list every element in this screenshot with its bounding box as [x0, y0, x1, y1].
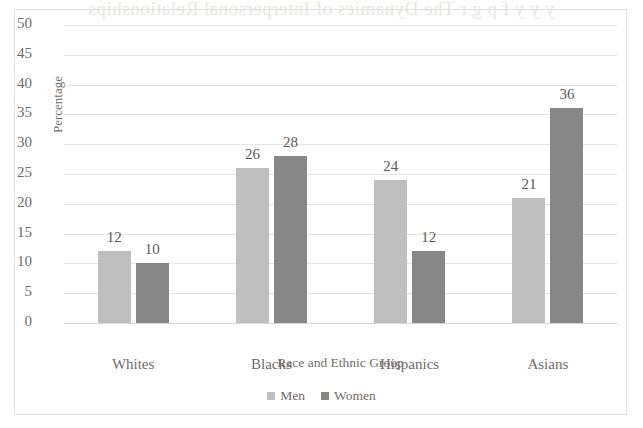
gridline [64, 55, 617, 56]
y-axis-tick-label: 50 [0, 15, 32, 32]
plot-area: 50454035302520151050Percentage1210Whites… [64, 25, 617, 323]
bar-value-label: 28 [264, 134, 317, 151]
chart-legend: MenWomen [0, 388, 643, 404]
legend-item-men[interactable]: Men [267, 388, 305, 404]
bar-whites-men [98, 251, 131, 323]
legend-label: Men [280, 388, 305, 404]
y-axis-tick-label: 5 [0, 283, 32, 300]
x-axis-title: Race and Ethnic Group [64, 355, 617, 371]
bar-blacks-men [236, 168, 269, 323]
gridline [64, 114, 617, 115]
y-axis-title: Percentage [50, 76, 66, 133]
y-axis-tick-label: 15 [0, 224, 32, 241]
legend-label: Women [334, 388, 376, 404]
bar-value-label: 12 [402, 229, 455, 246]
chart-screenshot: y y y f p g r The Dynamics of Interperso… [0, 0, 643, 428]
y-axis-tick-label: 0 [0, 313, 32, 330]
legend-swatch-icon [321, 392, 329, 400]
y-axis-tick-label: 40 [0, 75, 32, 92]
legend-item-women[interactable]: Women [321, 388, 376, 404]
gridline [64, 323, 617, 324]
legend-swatch-icon [267, 392, 275, 400]
bar-whites-women [136, 263, 169, 323]
bar-blacks-women [274, 156, 307, 323]
bar-asians-women [550, 108, 583, 323]
y-axis-tick-label: 45 [0, 45, 32, 62]
gridline [64, 144, 617, 145]
y-axis-tick-label: 20 [0, 194, 32, 211]
y-axis-tick-label: 30 [0, 134, 32, 151]
y-axis-tick-label: 35 [0, 104, 32, 121]
bar-hispanics-women [412, 251, 445, 323]
bar-value-label: 36 [540, 86, 593, 103]
y-axis-tick-label: 10 [0, 253, 32, 270]
gridline [64, 25, 617, 26]
bar-value-label: 10 [126, 241, 179, 258]
bar-hispanics-men [374, 180, 407, 323]
y-axis-tick-label: 25 [0, 164, 32, 181]
bar-asians-men [512, 198, 545, 323]
bar-value-label: 24 [364, 158, 417, 175]
bar-value-label: 21 [502, 176, 555, 193]
gridline [64, 85, 617, 86]
